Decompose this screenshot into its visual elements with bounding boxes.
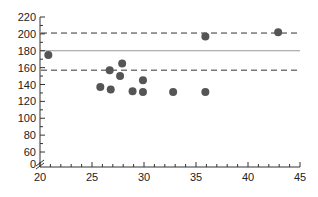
y-tick-label: 140 — [18, 79, 36, 91]
y-tick-label: 120 — [18, 95, 36, 107]
x-tick-label: 35 — [190, 171, 202, 183]
data-points — [44, 28, 282, 96]
data-point — [116, 72, 124, 80]
y-tick-label: 180 — [18, 45, 36, 57]
data-point — [169, 88, 177, 96]
data-point — [96, 83, 104, 91]
data-point — [129, 87, 137, 95]
data-point — [118, 59, 126, 67]
data-point — [139, 88, 147, 96]
y-tick-label: 220 — [18, 11, 36, 23]
reference-lines — [41, 33, 300, 70]
data-point — [274, 28, 282, 36]
data-point — [106, 66, 114, 74]
x-tick-label: 30 — [138, 171, 150, 183]
y-tick-label: 100 — [18, 112, 36, 124]
data-point — [201, 32, 209, 40]
y-tick-label: 160 — [18, 62, 36, 74]
data-point — [139, 76, 147, 84]
y-tick-label: 0 — [30, 158, 36, 170]
data-point — [201, 88, 209, 96]
x-tick-label: 40 — [242, 171, 254, 183]
scatter-chart: 06080100120140160180200220202530354045 — [0, 0, 318, 197]
y-tick-label: 200 — [18, 28, 36, 40]
data-point — [44, 51, 52, 59]
axes: 06080100120140160180200220202530354045 — [18, 11, 306, 183]
y-tick-label: 80 — [24, 129, 36, 141]
x-tick-label: 25 — [86, 171, 98, 183]
x-tick-label: 45 — [294, 171, 306, 183]
data-point — [107, 86, 115, 94]
x-tick-label: 20 — [34, 171, 46, 183]
y-tick-label: 60 — [24, 146, 36, 158]
